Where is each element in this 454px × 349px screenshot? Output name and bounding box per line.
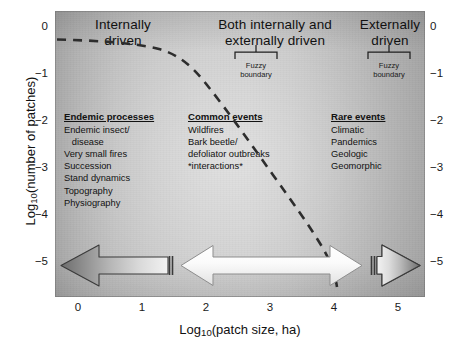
category-title: Rare events	[331, 111, 385, 123]
fuzzy-label-line2: boundary	[373, 70, 405, 79]
y-axis-title-subscript: 10	[28, 193, 39, 204]
category-item: *interactions*	[188, 160, 270, 172]
category-block-rare-events: Rare events Climatic Pandemics Geologic …	[331, 111, 385, 172]
x-axis-tick: 4	[322, 301, 346, 313]
plot-area: Internally driven Both internally and ex…	[55, 11, 425, 297]
category-item: Climatic	[331, 124, 385, 136]
mixed-driven-arrow	[181, 246, 362, 286]
x-axis-tick: 5	[386, 301, 410, 313]
fuzzy-boundary-label-1: Fuzzy boundary	[225, 61, 287, 80]
y-axis-tick-right: −3	[430, 161, 454, 173]
x-axis-title-subscript: 10	[201, 327, 212, 338]
category-item: defoliator outbreaks	[188, 148, 270, 160]
internally-driven-arrow	[61, 245, 173, 286]
zone-header-line2: driven	[104, 33, 141, 48]
fuzzy-label-line1: Fuzzy	[246, 61, 266, 70]
category-item: Geologic	[331, 148, 385, 160]
y-axis-title-prefix: Log	[23, 204, 38, 226]
category-item: Stand dynamics	[64, 172, 154, 184]
fuzzy-boundary-label-2: Fuzzy boundary	[358, 61, 420, 80]
zone-header-line2: driven	[371, 33, 408, 48]
x-axis-title: Log10(patch size, ha)	[55, 322, 425, 338]
category-block-common-events: Common events Wildfires Bark beetle/ def…	[188, 111, 270, 172]
category-item: Geomorphic	[331, 160, 385, 172]
x-axis-title-prefix: Log	[179, 322, 201, 337]
zone-header-line2: externally driven	[225, 33, 325, 48]
zone-header-line1: Externally	[360, 17, 420, 32]
category-item: Succession	[64, 160, 154, 172]
x-axis-tick: 3	[258, 301, 282, 313]
x-axis-title-suffix: (patch size, ha)	[212, 322, 301, 337]
figure-panel: Internally driven Both internally and ex…	[0, 0, 454, 349]
y-axis-tick-right: −2	[430, 114, 454, 126]
y-axis-title: Log10(number of patches)	[23, 36, 39, 266]
category-item: Endemic insect/	[64, 124, 154, 136]
zone-header-line1: Internally	[95, 17, 151, 32]
category-item: Very small fires	[64, 148, 154, 160]
x-axis-tick: 0	[66, 301, 90, 313]
y-axis-tick-right: 0	[430, 20, 454, 32]
fuzzy-label-line2: boundary	[240, 70, 272, 79]
zone-header-internally-driven: Internally driven	[63, 17, 183, 48]
externally-driven-arrow	[372, 245, 421, 286]
y-axis-tick-right: −5	[430, 255, 454, 267]
zone-header-both-driven: Both internally and externally driven	[185, 17, 365, 48]
category-item: Physiography	[64, 197, 154, 209]
y-axis-tick-right: −1	[430, 67, 454, 79]
category-item: Pandemics	[331, 136, 385, 148]
category-item: disease	[64, 136, 154, 148]
category-title: Common events	[188, 111, 270, 123]
category-title: Endemic processes	[64, 111, 154, 123]
y-axis-tick-left: 0	[24, 20, 48, 32]
y-axis-title-suffix: (number of patches)	[23, 77, 38, 193]
y-axis-tick-right: −4	[430, 208, 454, 220]
category-item: Bark beetle/	[188, 136, 270, 148]
category-item: Topography	[64, 185, 154, 197]
x-axis-tick: 1	[130, 301, 154, 313]
category-block-endemic-processes: Endemic processes Endemic insect/ diseas…	[64, 111, 154, 209]
category-item: Wildfires	[188, 124, 270, 136]
zone-header-line1: Both internally and	[218, 17, 332, 32]
x-axis-tick: 2	[194, 301, 218, 313]
zone-header-externally-driven: Externally driven	[355, 17, 425, 48]
fuzzy-label-line1: Fuzzy	[379, 61, 399, 70]
